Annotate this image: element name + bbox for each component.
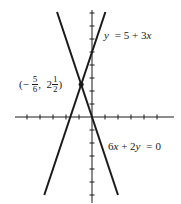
x-axis — [15, 115, 174, 120]
label-line-1-y: y — [104, 29, 109, 41]
label-line-2-y: y — [136, 140, 141, 152]
chart — [0, 0, 181, 204]
label-line-1-x: x — [147, 29, 152, 41]
label-line-1-rhs: 5 + 3 — [124, 29, 147, 41]
label-line-2: 6x + 2y =0 — [108, 141, 161, 152]
label-line-2-x: x — [114, 140, 119, 152]
intersection-point — [79, 82, 84, 87]
label-line-1-eq: = — [115, 29, 121, 41]
label-intersection: (− 56, 212) — [19, 75, 62, 94]
label-line-2-eq: = — [146, 140, 152, 152]
label-line-2-rhs: 0 — [155, 140, 161, 152]
label-point-comma: , 2 — [38, 78, 52, 90]
label-line-1: y =5 + 3x — [104, 30, 151, 41]
y-axis — [90, 10, 95, 203]
label-point-open: (− — [19, 78, 29, 90]
line-y-equals-5-plus-3x — [44, 12, 105, 195]
label-point-close: ) — [58, 78, 62, 90]
label-line-2-plus: + 2 — [121, 140, 135, 152]
